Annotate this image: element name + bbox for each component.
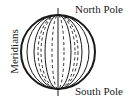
meridians-label: Meridians: [9, 29, 20, 74]
north-pole-label: North Pole: [75, 4, 123, 15]
south-pole-label: South Pole: [75, 86, 123, 97]
